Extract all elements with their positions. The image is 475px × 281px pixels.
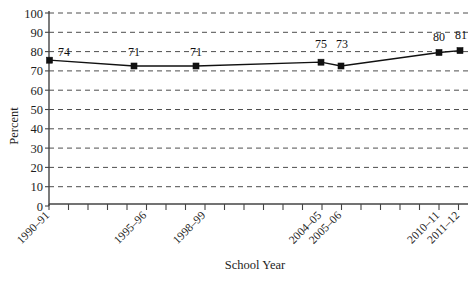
data-point-marker[interactable]	[338, 63, 344, 69]
data-point-marker[interactable]	[457, 48, 463, 54]
x-tick-labels: 1990–91 1995–96 1998–99 2004–05 2005–06 …	[14, 209, 461, 246]
data-label: 75	[315, 37, 327, 51]
y-axis	[45, 11, 49, 206]
data-label: 74	[58, 45, 70, 59]
x-tick-label-1995-96: 1995–96	[111, 209, 148, 246]
data-point-labels: 74 71 71 75 73 80 81	[58, 28, 467, 59]
data-label: 71	[190, 45, 202, 59]
y-axis-title: Percent	[7, 107, 21, 145]
data-point-marker[interactable]	[193, 63, 199, 69]
data-point-marker[interactable]	[131, 63, 137, 69]
y-tick-label: 70	[31, 64, 44, 78]
x-axis	[49, 204, 468, 210]
y-tick-labels: 100 90 80 70 60 50 40 30 20 10 0	[24, 7, 43, 214]
data-point-marker[interactable]	[47, 57, 53, 63]
x-axis-title: School Year	[225, 258, 286, 272]
y-tick-label: 60	[31, 84, 44, 98]
y-tick-label: 100	[24, 7, 43, 21]
data-label: 81	[455, 28, 467, 42]
line-chart: 100 90 80 70 60 50 40 30 20 10 0 Percent	[0, 0, 475, 281]
data-label: 80	[433, 30, 445, 44]
data-point-marker[interactable]	[318, 59, 324, 65]
data-label: 73	[336, 37, 348, 51]
gridlines	[49, 13, 468, 187]
y-tick-label: 90	[31, 26, 44, 40]
y-tick-label: 10	[31, 180, 44, 194]
x-tick-label-1990-91: 1990–91	[14, 209, 51, 246]
series-line-percent	[50, 51, 461, 66]
data-point-marker[interactable]	[436, 50, 442, 56]
y-tick-label: 30	[31, 142, 44, 156]
data-label: 71	[128, 45, 140, 59]
y-tick-label: 80	[31, 45, 44, 59]
x-tick-label-1998-99: 1998–99	[170, 209, 207, 246]
y-tick-label: 20	[31, 161, 44, 175]
chart-canvas: 100 90 80 70 60 50 40 30 20 10 0 Percent	[0, 0, 475, 281]
y-tick-label: 40	[31, 122, 44, 136]
y-tick-label: 50	[31, 103, 44, 117]
